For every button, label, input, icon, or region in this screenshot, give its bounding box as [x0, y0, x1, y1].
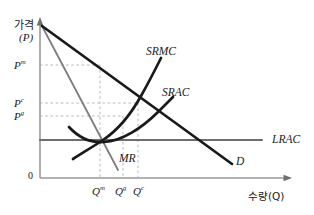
- x-axis-arrow-icon: [284, 175, 293, 182]
- curve-mr: [42, 26, 118, 170]
- quantity-tick-qm-base: Q: [92, 185, 100, 197]
- price-tick-pc: Pc: [14, 96, 24, 109]
- y-axis-arrow-icon: [37, 17, 44, 26]
- price-tick-pm: Pm: [14, 58, 26, 71]
- origin-label: 0: [28, 170, 33, 181]
- price-tick-pm-base: P: [14, 59, 21, 71]
- curve-label-lrac: LRAC: [272, 133, 300, 145]
- quantity-tick-qm: Qm: [92, 184, 105, 197]
- curve-label-srmc: SRMC: [146, 45, 176, 57]
- curve-label-mr: MR: [119, 152, 136, 164]
- quantity-tick-qm-sup: m: [100, 184, 105, 191]
- figure-canvas: 가격 (P) 수량(Q) 0 Pm Pc Pg Qm Qg Qc SRMC SR…: [0, 0, 314, 215]
- curve-label-srac: SRAC: [162, 86, 189, 98]
- price-tick-pc-base: P: [14, 97, 21, 109]
- curve-demand: [42, 26, 232, 164]
- price-tick-pm-sup: m: [21, 58, 26, 65]
- quantity-tick-qc: Qc: [133, 184, 144, 197]
- quantity-tick-qg-base: Q: [115, 185, 123, 197]
- curve-srac: [69, 97, 173, 142]
- curve-label-demand: D: [236, 155, 244, 167]
- price-tick-pg-sup: g: [21, 109, 24, 116]
- y-axis-title-symbol: (P): [19, 31, 33, 43]
- price-tick-pg: Pg: [14, 109, 24, 122]
- quantity-tick-qg-sup: g: [123, 184, 126, 191]
- quantity-tick-qg: Qg: [115, 184, 126, 197]
- price-tick-pg-base: P: [14, 110, 21, 122]
- x-axis-title: 수량(Q): [248, 188, 284, 203]
- diagram-svg: [0, 0, 314, 215]
- quantity-tick-qc-sup: c: [141, 184, 144, 191]
- price-tick-pc-sup: c: [21, 96, 24, 103]
- y-axis-title: 가격: [14, 16, 34, 32]
- quantity-tick-qc-base: Q: [133, 185, 141, 197]
